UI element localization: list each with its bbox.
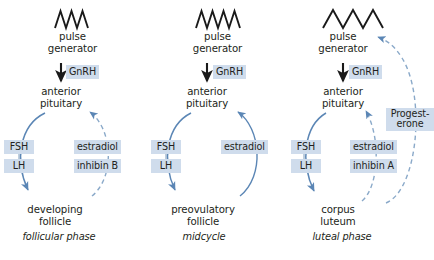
pulse-wave-icon	[323, 10, 383, 28]
lh-chip: LH	[291, 159, 321, 173]
lh-chip: LH	[151, 159, 181, 173]
anterior-pituitary-label-line1: anterior	[290, 86, 396, 97]
progesterone-line2: erone	[397, 118, 424, 129]
pulse-generator-label-line2: generator	[145, 43, 290, 54]
clipped-caption	[0, 256, 434, 260]
target-tissue-label-line2: follicle	[0, 216, 110, 227]
pulse-generator-label-line2: generator	[290, 43, 396, 54]
panel-follicular-phase: pulse generator GnRH anterior pituitary …	[0, 0, 145, 260]
anterior-pituitary-label-line2: pituitary	[0, 98, 122, 109]
target-tissue-label-line2: luteum	[290, 216, 386, 227]
phase-label: follicular phase	[0, 231, 118, 242]
pulse-generator-label-line1: pulse	[0, 31, 145, 42]
panel-midcycle: pulse generator GnRH anterior pituitary …	[145, 0, 290, 260]
anterior-pituitary-label-line2: pituitary	[145, 98, 269, 109]
gnrh-chip: GnRH	[66, 65, 99, 79]
fsh-chip: FSH	[291, 140, 321, 154]
fsh-chip: FSH	[151, 140, 181, 154]
estradiol-chip: estradiol	[74, 140, 121, 154]
estradiol-chip: estradiol	[350, 140, 397, 154]
phase-label: luteal phase	[290, 231, 394, 242]
target-tissue-label-line1: developing	[0, 204, 110, 215]
target-tissue-label-line1: preovulatory	[145, 204, 261, 215]
hpo-axis-figure: pulse generator GnRH anterior pituitary …	[0, 0, 434, 260]
pulse-generator-label-line1: pulse	[290, 31, 396, 42]
fsh-chip: FSH	[4, 140, 34, 154]
positive-feedback-arrow	[238, 112, 257, 196]
panel-luteal-phase: pulse generator GnRH anterior pituitary …	[290, 0, 434, 260]
pulse-wave-icon	[196, 11, 240, 28]
target-tissue-label-line1: corpus	[290, 204, 386, 215]
estradiol-chip: estradiol	[221, 140, 268, 154]
negative-feedback-arrow	[90, 112, 108, 196]
inhibin-b-chip: inhibin B	[74, 159, 121, 173]
inhibin-a-chip: inhibin A	[350, 159, 397, 173]
gnrh-chip: GnRH	[349, 65, 382, 79]
target-tissue-label-line2: follicle	[145, 216, 261, 227]
pulse-generator-label-line2: generator	[0, 43, 145, 54]
pulse-wave-icon	[55, 11, 88, 28]
lh-chip: LH	[4, 159, 34, 173]
anterior-pituitary-label-line2: pituitary	[290, 98, 396, 109]
phase-label: midcycle	[145, 231, 263, 242]
anterior-pituitary-label-line1: anterior	[0, 86, 122, 97]
pulse-generator-label-line1: pulse	[145, 31, 290, 42]
anterior-pituitary-label-line1: anterior	[145, 86, 269, 97]
progesterone-chip: Progest-erone	[386, 108, 434, 131]
gnrh-chip: GnRH	[213, 65, 246, 79]
negative-feedback-arrow-pituitary	[362, 111, 376, 201]
